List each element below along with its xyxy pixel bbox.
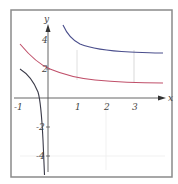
x-tick-label-neg1: -1 bbox=[14, 102, 23, 112]
function-graph: y x -1 1 2 3 4 2 -2 -4 bbox=[0, 0, 178, 184]
y-tick-label-neg2: -2 bbox=[36, 122, 45, 132]
y-tick-label-4: 4 bbox=[41, 35, 48, 45]
x-tick-label-3: 3 bbox=[132, 102, 138, 112]
y-tick-label-2: 2 bbox=[41, 64, 48, 74]
x-axis-label: x bbox=[168, 93, 173, 103]
x-tick-label-2: 2 bbox=[103, 102, 110, 112]
y-tick-label-neg4: -4 bbox=[36, 151, 45, 161]
y-axis-label: y bbox=[43, 14, 50, 24]
x-tick-label-1: 1 bbox=[75, 102, 81, 112]
